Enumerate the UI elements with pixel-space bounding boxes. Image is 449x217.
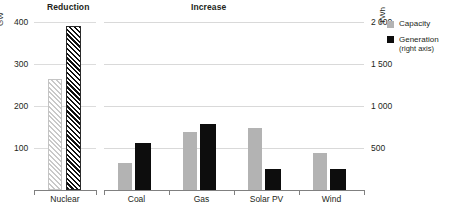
- plot-area-increase: [104, 22, 364, 190]
- group-header-reduction: Reduction: [47, 2, 89, 12]
- plot-area-reduction: [34, 22, 96, 190]
- bar-wind-capacity: [313, 153, 327, 190]
- y-tick-left-200: 200: [14, 101, 28, 111]
- y-tick-left-100: 100: [14, 143, 28, 153]
- bar-nuclear-generation: [66, 26, 81, 190]
- y-tick-left-400: 400: [14, 17, 28, 27]
- gridline-400: [34, 22, 96, 23]
- bar-coal-capacity: [118, 163, 132, 190]
- bar-wind-generation: [330, 169, 346, 190]
- category-label-solar-pv: Solar PV: [234, 194, 299, 204]
- bar-gas-capacity: [183, 132, 197, 190]
- legend-item-generation: Generation (right axis): [387, 35, 439, 54]
- y-axis-title-left: GW: [0, 12, 5, 26]
- y-tick-right-1000: 1 000: [371, 101, 392, 111]
- x-tick: [96, 190, 97, 195]
- gridline-300: [34, 64, 96, 65]
- gridline-100: [34, 148, 96, 149]
- legend-sublabel-generation: (right axis): [399, 44, 439, 53]
- gridline-200: [34, 106, 96, 107]
- bar-coal-generation: [135, 143, 151, 190]
- chart-legend: Capacity Generation (right axis): [387, 19, 439, 59]
- y-tick-right-500: 500: [371, 143, 385, 153]
- legend-label-capacity: Capacity: [399, 19, 439, 29]
- bar-gas-generation: [200, 124, 216, 190]
- y-tick-right-1500: 1 500: [371, 59, 392, 69]
- bar-nuclear-capacity: [48, 79, 62, 190]
- bar-solar-pv-generation: [265, 169, 281, 190]
- x-tick: [364, 190, 365, 195]
- category-label-nuclear: Nuclear: [34, 194, 96, 204]
- legend-label-generation: Generation: [399, 35, 439, 45]
- gridline-1000: [104, 106, 364, 107]
- category-label-coal: Coal: [104, 194, 169, 204]
- y-tick-left-300: 300: [14, 59, 28, 69]
- group-header-increase: Increase: [191, 2, 226, 12]
- bar-solar-pv-capacity: [248, 128, 262, 190]
- category-label-wind: Wind: [299, 194, 364, 204]
- legend-item-capacity: Capacity: [387, 19, 439, 29]
- chart-container: Reduction Increase GW TWh 400 300 200 10…: [0, 0, 449, 217]
- category-label-gas: Gas: [169, 194, 234, 204]
- gridline-2000: [104, 22, 364, 23]
- x-axis-reduction: [34, 190, 96, 191]
- gridline-1500: [104, 64, 364, 65]
- legend-swatch-generation-icon: [387, 36, 394, 43]
- legend-swatch-capacity-icon: [387, 21, 394, 28]
